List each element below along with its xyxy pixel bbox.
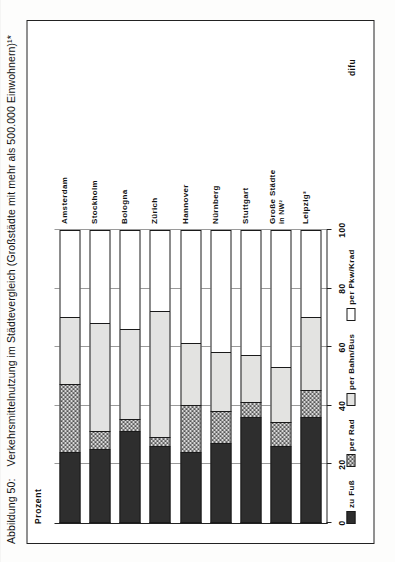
category-label-sub: in NW² xyxy=(276,170,285,224)
segment-rad xyxy=(119,420,140,432)
segment-pkw xyxy=(119,230,140,330)
page-canvas: Abbildung 50: Verkehrsmittelnutzung im S… xyxy=(0,0,395,562)
plot-canvas: 020406080100 xyxy=(54,230,327,524)
segment-rad xyxy=(59,385,80,452)
segment-rad xyxy=(89,432,110,450)
caption-text: Verkehrsmittelnutzung im Städtevergleich… xyxy=(4,35,16,466)
segment-rad xyxy=(149,438,170,447)
segment-rad xyxy=(300,391,321,417)
segment-pkw xyxy=(180,230,201,344)
segment-bahn xyxy=(180,344,201,406)
bar-gro-e-st-dte xyxy=(270,230,291,523)
category-label: Leipzig³ xyxy=(300,191,309,224)
legend-label-pkw: per Pkw/Krad xyxy=(346,249,355,304)
source-credit: difu xyxy=(346,59,356,76)
segment-rad xyxy=(240,403,261,418)
axis-ticklabel-80: 80 xyxy=(336,283,346,293)
legend-label-rad: per Rad xyxy=(346,419,355,451)
segment-rad xyxy=(210,412,231,444)
legend-item-pkw: per Pkw/Krad xyxy=(346,249,355,320)
segment-bahn xyxy=(119,330,140,421)
legend-item-rad: per Rad xyxy=(346,419,355,467)
bar-z-rich xyxy=(149,230,170,523)
segment-fuss xyxy=(149,447,170,523)
axis-ticklabel-100: 100 xyxy=(336,222,346,238)
axis-tick-80 xyxy=(326,288,331,289)
segment-bahn xyxy=(210,353,231,412)
segment-pkw xyxy=(240,230,261,356)
segment-rad xyxy=(270,423,291,446)
segment-bahn xyxy=(59,318,80,385)
category-label: Hannover xyxy=(180,184,189,224)
bar-stockholm xyxy=(89,230,110,523)
segment-bahn xyxy=(300,318,321,391)
bar-n-rnberg xyxy=(210,230,231,523)
axis-tick-100 xyxy=(326,229,331,230)
plot-area: 020406080100 AmsterdamStockholmBolognaZü… xyxy=(46,58,336,524)
segment-pkw xyxy=(210,230,231,353)
legend-swatch-rad xyxy=(346,454,355,467)
segment-fuss xyxy=(270,447,291,523)
segment-pkw xyxy=(89,230,110,324)
figure-caption: Abbildung 50: Verkehrsmittelnutzung im S… xyxy=(4,20,16,544)
axis-ticklabel-20: 20 xyxy=(336,459,346,469)
segment-pkw xyxy=(300,230,321,318)
category-label: Bologna xyxy=(119,190,128,224)
segment-fuss xyxy=(210,444,231,523)
axis-tick-20 xyxy=(326,463,331,464)
caption-number: Abbildung 50: xyxy=(4,478,16,544)
chart-legend: zu Fußper Radper Bahn/Busper Pkw/Krad xyxy=(346,249,355,524)
legend-label-fuss: zu Fuß xyxy=(346,480,355,508)
axis-tick-0 xyxy=(326,522,331,523)
segment-fuss xyxy=(180,453,201,523)
bar-stuttgart xyxy=(240,230,261,523)
category-label: Zürich xyxy=(149,197,158,224)
category-label: Große Städtein NW² xyxy=(267,170,285,224)
bar-amsterdam xyxy=(59,230,80,523)
segment-bahn xyxy=(240,356,261,403)
segment-fuss xyxy=(119,432,140,523)
legend-item-bahn: per Bahn/Bus xyxy=(346,334,355,406)
segment-pkw xyxy=(270,230,291,368)
axis-label-prozent: Prozent xyxy=(32,489,42,524)
legend-item-fuss: zu Fuß xyxy=(346,480,355,524)
axis-tick-60 xyxy=(326,346,331,347)
segment-bahn xyxy=(270,368,291,424)
segment-fuss xyxy=(59,453,80,523)
segment-bahn xyxy=(89,324,110,432)
category-label: Amsterdam xyxy=(59,177,68,224)
axis-tick-40 xyxy=(326,405,331,406)
legend-label-bahn: per Bahn/Bus xyxy=(346,334,355,390)
segment-fuss xyxy=(89,450,110,523)
segment-fuss xyxy=(240,418,261,523)
legend-swatch-bahn xyxy=(346,393,355,406)
bar-hannover xyxy=(180,230,201,523)
segment-fuss xyxy=(300,418,321,523)
segment-bahn xyxy=(149,312,170,438)
axis-ticklabel-40: 40 xyxy=(336,401,346,411)
legend-swatch-fuss xyxy=(346,511,355,524)
category-label: Stuttgart xyxy=(240,188,249,224)
axis-ticklabel-0: 0 xyxy=(336,520,346,525)
bar-leipzig xyxy=(300,230,321,523)
segment-pkw xyxy=(149,230,170,312)
rotated-figure-stage: Abbildung 50: Verkehrsmittelnutzung im S… xyxy=(0,0,395,562)
bar-group xyxy=(54,230,326,523)
axis-ticklabel-60: 60 xyxy=(336,342,346,352)
category-label: Nürnberg xyxy=(210,185,219,224)
segment-pkw xyxy=(59,230,80,318)
category-label: Stockholm xyxy=(89,180,98,224)
legend-swatch-pkw xyxy=(346,308,355,321)
bar-bologna xyxy=(119,230,140,523)
segment-rad xyxy=(180,406,201,453)
